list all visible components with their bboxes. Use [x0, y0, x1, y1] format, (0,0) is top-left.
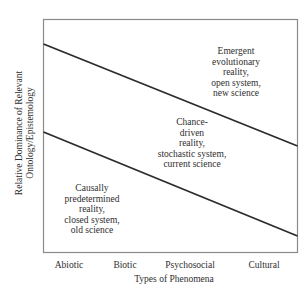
region-label-chance-driven: Chance- driven reality, stochastic syste… — [158, 117, 227, 170]
x-axis-title: Types of Phenomena — [134, 274, 214, 284]
region-label-causally-predetermined: Causally predetermined reality, closed s… — [64, 183, 119, 236]
x-tick-biotic: Biotic — [113, 260, 136, 270]
x-tick-abiotic: Abiotic — [55, 260, 84, 270]
diagram-plot-area — [0, 0, 308, 288]
x-tick-psychosocial: Psychosocial — [165, 260, 215, 270]
y-axis-title: Relative Dominance of Relevant Ontology/… — [14, 48, 35, 218]
ontology-dominance-diagram: Relative Dominance of Relevant Ontology/… — [0, 0, 308, 288]
region-label-emergent: Emergent evolutionary reality, open syst… — [211, 46, 261, 99]
x-tick-cultural: Cultural — [248, 260, 279, 270]
